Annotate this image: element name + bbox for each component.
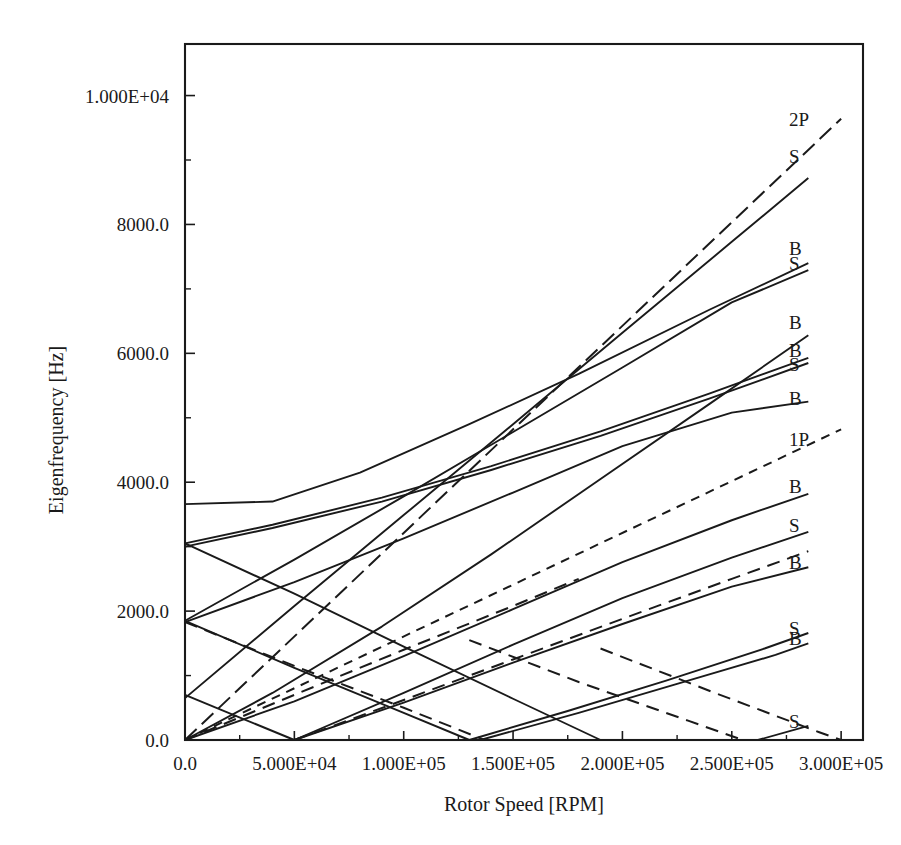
curve-label-2P: 2P — [789, 109, 809, 130]
y-tick-label: 2000.0 — [117, 601, 169, 622]
x-tick-label: 1.500E+05 — [471, 753, 555, 774]
curve-label-B-forward-1: B — [789, 476, 802, 497]
curve-label-B-forward-0: B — [789, 628, 802, 649]
curve-label-1P: 1P — [789, 429, 809, 450]
x-axis-title: Rotor Speed [RPM] — [444, 793, 604, 816]
x-tick-label: 2.500E+05 — [690, 753, 774, 774]
curve-label-S-forward-5: S — [789, 253, 800, 274]
x-tick-label: 1.000E+05 — [362, 753, 446, 774]
curve-label-S-forward-4: S — [789, 354, 800, 375]
x-tick-label: 3.000E+05 — [799, 753, 883, 774]
x-tick-label: 2.000E+05 — [580, 753, 664, 774]
figure-background — [0, 0, 901, 845]
curve-label-S-forward-2: B — [789, 552, 802, 573]
x-tick-label: 5.000E+04 — [252, 753, 337, 774]
y-axis-title: Eigenfrequency [Hz] — [45, 346, 68, 514]
x-tick-label: 0.0 — [173, 753, 197, 774]
curve-label-S-lowest: S — [789, 711, 800, 732]
y-tick-label: 4000.0 — [117, 472, 169, 493]
y-tick-label: 8000.0 — [117, 214, 169, 235]
y-tick-label: 6000.0 — [117, 343, 169, 364]
curve-label-B-forward-2: B — [789, 388, 802, 409]
campbell-diagram-figure: 0.05.000E+041.000E+051.500E+052.000E+052… — [0, 0, 901, 845]
curve-label-S-forward-3: S — [789, 515, 800, 536]
y-tick-label: 1.000E+04 — [85, 86, 170, 107]
curve-label-B-forward-4: B — [789, 312, 802, 333]
y-tick-label: 0.0 — [145, 730, 169, 751]
curve-label-S-forward-6: S — [789, 146, 800, 167]
campbell-diagram-svg: 0.05.000E+041.000E+051.500E+052.000E+052… — [0, 0, 901, 845]
